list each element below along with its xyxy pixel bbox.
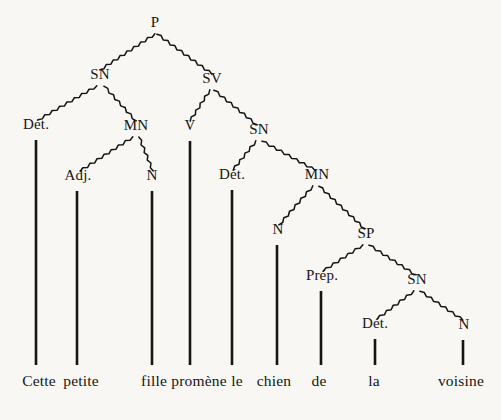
terminal-word-fille: fille <box>141 373 167 389</box>
branch-MN2-to-SP <box>319 186 365 229</box>
tree-branches-layer <box>0 0 501 420</box>
branch-SV-to-SN2 <box>214 90 257 125</box>
terminal-word-la: la <box>368 373 380 389</box>
terminal-word-de: de <box>311 373 326 389</box>
terminal-word-cette: Cette <box>22 373 56 389</box>
node-label-mn2: MN <box>305 167 330 182</box>
syntax-tree-diagram: PSNSVDét.MNVSNAdj.NDét.MNNSPPrép.SNDét.N… <box>0 0 501 420</box>
terminal-word-petite: petite <box>63 373 99 389</box>
node-label-sp: SP <box>357 226 374 241</box>
branch-SN1-to-MN1 <box>104 86 136 121</box>
branch-SN3-to-N3 <box>420 291 463 320</box>
branch-MN2-to-N2 <box>279 186 313 225</box>
node-label-sn3: SN <box>407 272 427 287</box>
terminal-word-voisine: voisine <box>438 373 484 389</box>
terminal-word-le: le <box>231 373 243 389</box>
node-label-p: P <box>151 15 160 30</box>
branch-P-to-SN1 <box>100 34 155 70</box>
branch-MN1-to-N1 <box>139 137 154 171</box>
node-label-sn2: SN <box>249 122 269 137</box>
node-label-det2: Dét. <box>219 167 245 182</box>
terminal-word-chien: chien <box>257 373 292 389</box>
node-label-v: V <box>184 118 195 133</box>
node-label-sv: SV <box>202 71 222 86</box>
node-label-det3: Dét. <box>362 316 388 331</box>
branch-SN1-to-DET1 <box>38 86 97 120</box>
node-label-mn1: MN <box>124 118 149 133</box>
node-label-det1: Dét. <box>23 117 49 132</box>
node-label-prep: Prép. <box>306 268 338 283</box>
node-label-sn1: SN <box>90 67 110 82</box>
node-label-n1: N <box>146 168 157 183</box>
branch-P-to-SV <box>157 34 212 74</box>
terminal-stems <box>36 140 463 365</box>
node-label-adj: Adj. <box>64 168 91 183</box>
terminal-word-prom-ne: promène <box>171 373 227 389</box>
node-label-n3: N <box>458 317 469 332</box>
node-label-n2: N <box>272 222 283 237</box>
